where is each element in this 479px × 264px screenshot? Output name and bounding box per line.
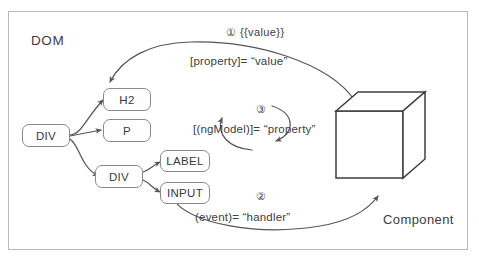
binding-1-expression: [property]= “value” xyxy=(190,55,287,67)
dom-node-label[interactable]: LABEL xyxy=(160,150,210,172)
dom-section-title: DOM xyxy=(31,33,64,48)
component-section-title: Component xyxy=(383,212,454,227)
dom-node-label: DIV xyxy=(36,130,56,142)
dom-node-label-text: LABEL xyxy=(166,155,203,167)
binding-1-interpolation: {{value}} xyxy=(240,26,285,38)
binding-1-number: ① xyxy=(226,26,236,38)
dom-node-label: DIV xyxy=(109,171,129,183)
binding-3-expression: [(ngModel)]= “property” xyxy=(193,123,316,135)
component-cube-icon xyxy=(336,92,425,178)
binding-3-marker: ③ xyxy=(256,103,266,116)
binding-2-marker: ② xyxy=(256,190,266,203)
dom-node-label: H2 xyxy=(119,94,134,106)
tree-edge-div-input xyxy=(143,180,160,192)
dom-node-label-text: INPUT xyxy=(167,187,203,199)
dom-node-input[interactable]: INPUT xyxy=(160,182,210,204)
tree-edge-div-label xyxy=(143,162,160,172)
dom-node-h2[interactable]: H2 xyxy=(103,88,151,111)
binding-1-marker: ① {{value}} xyxy=(226,26,284,39)
binding-2-expression: (event)= “handler” xyxy=(195,211,290,223)
dom-node-child-div[interactable]: DIV xyxy=(95,165,143,188)
dom-node-p[interactable]: P xyxy=(103,119,151,142)
dom-node-root-div[interactable]: DIV xyxy=(22,124,70,147)
diagram-canvas: DIV H2 P DIV LABEL INPUT DOM Component ①… xyxy=(0,0,479,264)
tree-edge-div-div xyxy=(70,139,98,176)
tree-edge-div-h2 xyxy=(70,100,103,135)
dom-node-label: P xyxy=(123,125,131,137)
